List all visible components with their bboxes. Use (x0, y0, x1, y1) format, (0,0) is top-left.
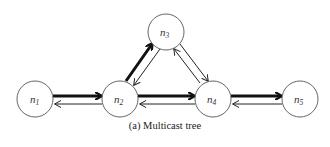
node-n1: n1 (17, 81, 53, 117)
edge-n3-n2-thin (134, 49, 160, 85)
node-n3: n3 (148, 14, 184, 50)
figure-caption: (a) Multicast tree (0, 120, 330, 131)
edge-n2-n3-thick (126, 44, 152, 81)
node-n5: n5 (282, 81, 318, 117)
node-n2: n2 (102, 81, 138, 117)
node-n4: n4 (195, 81, 231, 117)
